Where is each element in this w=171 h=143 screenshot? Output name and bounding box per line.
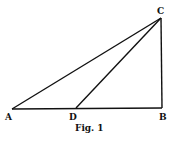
label-c: C — [157, 6, 164, 16]
label-d: D — [69, 112, 77, 122]
segment-ab — [12, 108, 162, 109]
segment-cd — [76, 18, 161, 108]
label-b: B — [159, 112, 167, 122]
segment-bc — [161, 18, 162, 108]
triangle-diagram: C A D B Fig. 1 — [0, 0, 171, 143]
label-a: A — [4, 112, 13, 122]
segment-ca — [12, 18, 161, 109]
figure-caption: Fig. 1 — [75, 123, 104, 133]
